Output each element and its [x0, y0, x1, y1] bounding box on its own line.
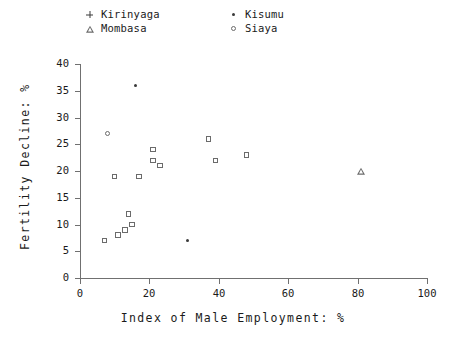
data-point-square [241, 149, 252, 160]
x-tick [149, 279, 150, 284]
data-point-circle [102, 128, 113, 139]
x-tick [427, 279, 428, 284]
x-tick-label: 40 [199, 287, 239, 299]
x-axis-line [80, 278, 428, 279]
data-point-square [210, 155, 221, 166]
y-tick-label: 40 [0, 57, 69, 69]
data-point-triangle [356, 166, 367, 177]
y-tick-label: 25 [0, 137, 69, 149]
y-tick [75, 64, 80, 65]
y-tick-label: 0 [0, 271, 69, 283]
y-tick-label: 30 [0, 111, 69, 123]
x-tick [288, 279, 289, 284]
x-tick-label: 60 [268, 287, 308, 299]
data-point-square [99, 235, 110, 246]
y-axis-line [80, 64, 81, 279]
data-point-dot [130, 80, 141, 91]
data-point-square [133, 171, 144, 182]
x-tick-label: 20 [129, 287, 169, 299]
x-tick [219, 279, 220, 284]
scatter-plot-figure: Kirinyaga Kisumu Mombasa Siaya 051015202… [0, 0, 466, 345]
data-point-dot [182, 235, 193, 246]
y-tick-label: 15 [0, 191, 69, 203]
x-tick [358, 279, 359, 284]
plot-area: 0510152025303540 020406080100 [0, 0, 466, 345]
y-tick-label: 5 [0, 244, 69, 256]
y-axis-title: Fertility Decline: % [18, 84, 32, 250]
data-point-square [147, 144, 158, 155]
y-tick [75, 225, 80, 226]
x-tick-label: 80 [338, 287, 378, 299]
y-tick [75, 251, 80, 252]
data-point-square [123, 208, 134, 219]
y-tick [75, 144, 80, 145]
y-tick-label: 10 [0, 218, 69, 230]
x-tick [80, 279, 81, 284]
y-tick-label: 35 [0, 84, 69, 96]
data-point-square [127, 219, 138, 230]
y-tick [75, 171, 80, 172]
y-tick-label: 20 [0, 164, 69, 176]
x-tick-label: 0 [60, 287, 100, 299]
data-point-square [109, 171, 120, 182]
x-axis-title: Index of Male Employment: % [0, 311, 466, 325]
x-tick-label: 100 [407, 287, 447, 299]
y-tick [75, 91, 80, 92]
y-tick [75, 198, 80, 199]
data-point-square [154, 160, 165, 171]
y-tick [75, 118, 80, 119]
data-point-square [203, 133, 214, 144]
